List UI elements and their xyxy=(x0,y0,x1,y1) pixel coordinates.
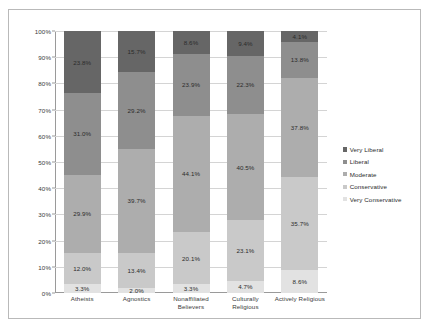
x-axis-category-label: Agnostics xyxy=(109,295,163,310)
y-axis-tick-label: 90% xyxy=(38,54,51,61)
segment-value-label: 29.2% xyxy=(128,107,146,114)
legend-item[interactable]: Very Conservative xyxy=(343,196,402,203)
column-segment[interactable]: 23.1% xyxy=(227,220,264,281)
segment-value-label: 40.5% xyxy=(236,164,254,171)
column-slot: 8.6%23.9%44.1%20.1%3.3% xyxy=(164,31,218,293)
stacked-column[interactable]: 8.6%23.9%44.1%20.1%3.3% xyxy=(173,31,210,293)
segment-value-label: 35.7% xyxy=(291,220,309,227)
segment-value-label: 37.8% xyxy=(291,124,309,131)
y-axis-tick-label: 0% xyxy=(42,290,51,297)
column-slot: 9.4%22.3%40.5%23.1%4.7% xyxy=(218,31,272,293)
column-segment[interactable]: 44.1% xyxy=(173,116,210,232)
y-axis-tick-label: 50% xyxy=(38,159,51,166)
segment-value-label: 12.0% xyxy=(73,265,91,272)
column-segment[interactable]: 31.0% xyxy=(64,93,101,174)
segment-value-label: 22.3% xyxy=(236,81,254,88)
legend-item-label: Very Conservative xyxy=(350,196,402,203)
segment-value-label: 23.8% xyxy=(73,59,91,66)
segment-value-label: 13.4% xyxy=(128,267,146,274)
legend-item-label: Moderate xyxy=(350,171,377,178)
column-segment[interactable]: 8.6% xyxy=(173,31,210,54)
segment-value-label: 13.8% xyxy=(291,56,309,63)
column-segment[interactable]: 4.7% xyxy=(227,281,264,293)
column-segment[interactable]: 3.3% xyxy=(64,284,101,293)
segment-value-label: 3.3% xyxy=(184,285,199,292)
column-segment[interactable]: 4.1% xyxy=(281,31,318,42)
segment-value-label: 8.6% xyxy=(184,39,199,46)
y-axis-tick-label: 10% xyxy=(38,263,51,270)
column-segment[interactable]: 23.8% xyxy=(64,31,101,93)
segment-value-label: 23.9% xyxy=(182,81,200,88)
y-axis-tick-label: 40% xyxy=(38,185,51,192)
column-segment[interactable]: 2.0% xyxy=(118,288,155,293)
column-segment[interactable]: 20.1% xyxy=(173,232,210,285)
legend-color-swatch xyxy=(343,197,347,201)
column-segment[interactable]: 3.3% xyxy=(173,284,210,293)
legend-color-swatch xyxy=(343,147,347,151)
column-group: 23.8%31.0%29.9%12.0%3.3%15.7%29.2%39.7%1… xyxy=(55,31,327,293)
segment-value-label: 4.7% xyxy=(238,283,253,290)
segment-value-label: 29.9% xyxy=(73,210,91,217)
column-segment[interactable]: 29.9% xyxy=(64,175,101,253)
column-segment[interactable]: 15.7% xyxy=(118,31,155,72)
column-segment[interactable]: 39.7% xyxy=(118,149,155,253)
x-axis-category-label: Nonaffiliated Believers xyxy=(164,295,218,310)
y-axis-tick-label: 70% xyxy=(38,106,51,113)
column-segment[interactable]: 29.2% xyxy=(118,72,155,149)
column-segment[interactable]: 9.4% xyxy=(227,31,264,56)
column-segment[interactable]: 22.3% xyxy=(227,56,264,114)
legend-color-swatch xyxy=(343,160,347,164)
x-axis-category-label: Culturally Religious xyxy=(218,295,272,310)
segment-value-label: 31.0% xyxy=(73,130,91,137)
legend-color-swatch xyxy=(343,185,347,189)
segment-value-label: 8.6% xyxy=(293,278,308,285)
legend-item-label: Liberal xyxy=(350,158,369,165)
stacked-column[interactable]: 9.4%22.3%40.5%23.1%4.7% xyxy=(227,31,264,293)
column-slot: 23.8%31.0%29.9%12.0%3.3% xyxy=(55,31,109,293)
chart-legend: Very LiberalLiberalModerateConservativeV… xyxy=(343,146,402,203)
column-segment[interactable]: 40.5% xyxy=(227,114,264,220)
segment-value-label: 3.3% xyxy=(75,285,90,292)
column-slot: 4.1%13.8%37.8%35.7%8.6% xyxy=(273,31,327,293)
segment-value-label: 23.1% xyxy=(236,247,254,254)
legend-item-label: Conservative xyxy=(350,183,387,190)
legend-item[interactable]: Moderate xyxy=(343,171,402,178)
y-axis-tick-label: 30% xyxy=(38,211,51,218)
legend-item-label: Very Liberal xyxy=(350,146,384,153)
legend-item[interactable]: Conservative xyxy=(343,183,402,190)
legend-color-swatch xyxy=(343,172,347,176)
segment-value-label: 44.1% xyxy=(182,170,200,177)
stacked-column[interactable]: 15.7%29.2%39.7%13.4%2.0% xyxy=(118,31,155,293)
stacked-column[interactable]: 23.8%31.0%29.9%12.0%3.3% xyxy=(64,31,101,293)
stacked-column[interactable]: 4.1%13.8%37.8%35.7%8.6% xyxy=(281,31,318,293)
segment-value-label: 9.4% xyxy=(238,40,253,47)
segment-value-label: 15.7% xyxy=(128,48,146,55)
x-axis-category-label: Atheists xyxy=(55,295,109,310)
column-segment[interactable]: 13.4% xyxy=(118,253,155,288)
legend-item[interactable]: Very Liberal xyxy=(343,146,402,153)
column-segment[interactable]: 8.6% xyxy=(281,270,318,293)
y-axis-tick-label: 60% xyxy=(38,132,51,139)
column-segment[interactable]: 35.7% xyxy=(281,177,318,271)
column-slot: 15.7%29.2%39.7%13.4%2.0% xyxy=(109,31,163,293)
x-axis-category-label: Actively Religious xyxy=(273,295,327,310)
legend-item[interactable]: Liberal xyxy=(343,158,402,165)
column-segment[interactable]: 23.9% xyxy=(173,54,210,117)
column-segment[interactable]: 37.8% xyxy=(281,78,318,177)
chart-frame: 0%10%20%30%40%50%60%70%80%90%100% 23.8%3… xyxy=(8,9,421,319)
y-axis-tick-label: 100% xyxy=(35,28,51,35)
plot-area: 0%10%20%30%40%50%60%70%80%90%100% 23.8%3… xyxy=(55,31,327,293)
y-axis-tick-label: 20% xyxy=(38,237,51,244)
column-segment[interactable]: 12.0% xyxy=(64,253,101,284)
segment-value-label: 20.1% xyxy=(182,255,200,262)
segment-value-label: 4.1% xyxy=(293,33,308,40)
y-axis-tick-label: 80% xyxy=(38,80,51,87)
segment-value-label: 2.0% xyxy=(129,288,144,293)
x-axis-category-labels: AtheistsAgnosticsNonaffiliated Believers… xyxy=(55,295,327,310)
column-segment[interactable]: 13.8% xyxy=(281,42,318,78)
segment-value-label: 39.7% xyxy=(128,197,146,204)
